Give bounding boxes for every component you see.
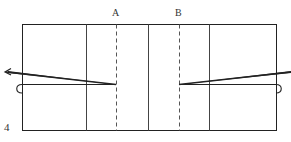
fold-diagram: A B 4 [0, 0, 291, 142]
fold-label-a: A [112, 8, 119, 18]
fold-label-b: B [175, 8, 182, 18]
figure-number: 4 [4, 122, 10, 133]
right-pull-arrow [179, 72, 291, 85]
left-hook-icon [17, 85, 22, 94]
diagram-canvas [0, 0, 291, 142]
